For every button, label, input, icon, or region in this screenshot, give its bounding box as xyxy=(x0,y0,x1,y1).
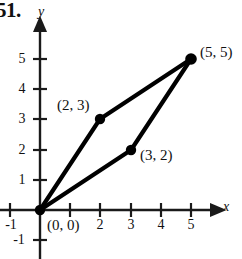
point-label-origin: (0, 0) xyxy=(47,218,80,233)
point-marker-5-5 xyxy=(185,53,197,65)
x-tick-label-4: 4 xyxy=(153,218,169,232)
y-tick-label-neg1: -1 xyxy=(8,233,30,247)
y-tick-label-2: 2 xyxy=(14,143,30,157)
x-tick-label-5: 5 xyxy=(183,218,199,232)
point-marker-3-2 xyxy=(126,145,136,155)
point-label-3-2: (3, 2) xyxy=(140,148,173,163)
x-tick-label-2: 2 xyxy=(92,218,108,232)
y-tick-label-5: 5 xyxy=(14,52,30,66)
lower-path-line xyxy=(40,59,191,210)
x-tick-label-neg1: -1 xyxy=(2,218,20,232)
y-tick-label-1: 1 xyxy=(14,173,30,187)
y-tick-label-3: 3 xyxy=(14,112,30,126)
point-label-5-5: (5, 5) xyxy=(200,45,233,60)
plot-canvas xyxy=(0,0,242,259)
point-label-2-3: (2, 3) xyxy=(57,98,90,113)
point-marker-2-3 xyxy=(95,114,105,124)
point-marker-origin xyxy=(35,205,45,215)
coordinate-plane-figure: 51. y x xyxy=(0,0,242,259)
upper-path-line xyxy=(40,59,191,210)
x-tick-label-3: 3 xyxy=(123,218,139,232)
y-tick-label-4: 4 xyxy=(14,82,30,96)
